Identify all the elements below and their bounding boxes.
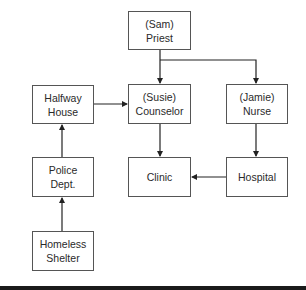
node-shelter-line2: Shelter: [46, 251, 79, 265]
node-police-dept: Police Dept.: [32, 157, 94, 197]
node-shelter-line1: Homeless: [40, 237, 87, 251]
node-police-line1: Police: [49, 163, 78, 177]
node-nurse-role: Nurse: [243, 104, 271, 118]
node-clinic-label: Clinic: [147, 170, 173, 184]
node-priest: (Sam) Priest: [128, 11, 191, 50]
node-priest-name: (Sam): [145, 17, 174, 31]
node-counselor-role: Counselor: [136, 104, 184, 118]
node-halfway-house: Halfway House: [32, 85, 94, 124]
edge-priest-nurse: [160, 60, 256, 83]
node-homeless-shelter: Homeless Shelter: [32, 231, 94, 271]
node-hospital-label: Hospital: [238, 170, 276, 184]
node-counselor: (Susie) Counselor: [128, 84, 191, 124]
node-police-line2: Dept.: [50, 177, 75, 191]
node-halfway-line2: House: [48, 105, 78, 119]
node-priest-role: Priest: [146, 31, 173, 45]
node-nurse-name: (Jamie): [239, 90, 274, 104]
node-halfway-line1: Halfway: [44, 91, 81, 105]
node-counselor-name: (Susie): [143, 90, 176, 104]
node-nurse: (Jamie) Nurse: [226, 84, 288, 124]
node-hospital: Hospital: [226, 157, 288, 197]
node-clinic: Clinic: [128, 157, 191, 197]
bottom-rule-divider: [0, 286, 306, 290]
